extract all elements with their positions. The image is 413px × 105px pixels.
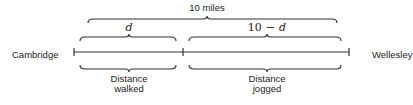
total-distance-label: 10 miles	[189, 2, 225, 13]
wellesley-label: Wellesley	[372, 49, 413, 60]
jogged-expression-label: 10−d	[248, 21, 286, 34]
walked-variable-label: d	[125, 21, 132, 34]
cambridge-label: Cambridge	[12, 49, 58, 60]
jogged-expression-minus: −	[266, 21, 275, 34]
jogged-expression-number: 10	[248, 21, 262, 34]
walked-top-brace	[80, 34, 176, 41]
jogged-expression-variable: d	[279, 21, 286, 34]
jogged-label-line2: jogged	[252, 83, 282, 94]
jogged-top-brace	[189, 34, 341, 41]
walked-bottom-brace	[80, 65, 176, 72]
walked-label-line2: walked	[113, 83, 144, 94]
jogged-bottom-brace	[189, 65, 341, 72]
distance-diagram: Cambridge Wellesley 10 miles d 10−d Dist…	[0, 0, 413, 105]
